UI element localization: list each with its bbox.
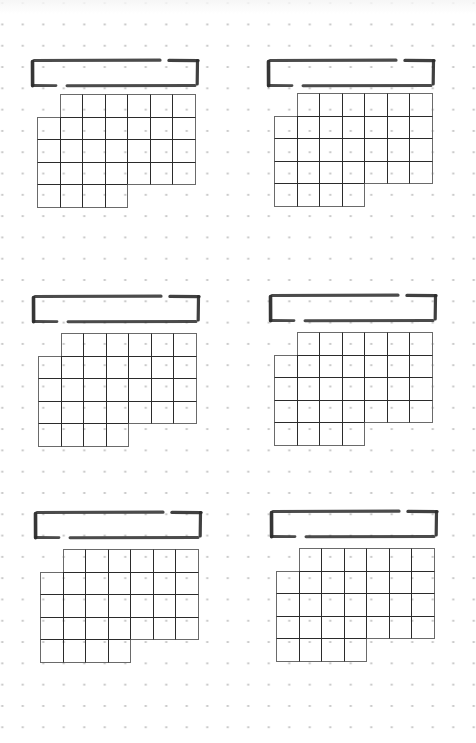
day-cell[interactable] [37, 162, 61, 186]
day-cell[interactable] [151, 356, 175, 380]
month-title-box[interactable] [35, 512, 201, 538]
day-cell[interactable] [387, 355, 411, 379]
day-cell[interactable] [153, 594, 177, 618]
day-cell[interactable] [321, 548, 345, 572]
day-cell[interactable] [153, 549, 177, 573]
day-cell[interactable] [344, 548, 368, 572]
day-cell[interactable] [105, 94, 129, 118]
day-cell[interactable] [130, 572, 154, 596]
day-cell[interactable] [342, 161, 366, 185]
day-cell[interactable] [85, 617, 109, 641]
day-cell[interactable] [38, 378, 62, 402]
day-cell[interactable] [409, 377, 433, 401]
day-cell[interactable] [61, 378, 85, 402]
day-cell[interactable] [299, 593, 323, 617]
day-cell[interactable] [342, 377, 366, 401]
day-cell[interactable] [173, 378, 197, 402]
day-cell[interactable] [105, 162, 129, 186]
day-cell[interactable] [61, 401, 85, 425]
day-cell[interactable] [173, 333, 197, 357]
month-title-box[interactable] [32, 60, 198, 86]
day-cell[interactable] [319, 161, 343, 185]
day-cell[interactable] [60, 117, 84, 141]
day-cell[interactable] [127, 117, 151, 141]
day-cell[interactable] [321, 616, 345, 640]
day-cell[interactable] [364, 138, 388, 162]
day-cell[interactable] [387, 116, 411, 140]
day-cell[interactable] [299, 638, 323, 662]
day-cell[interactable] [366, 571, 390, 595]
day-cell[interactable] [297, 400, 321, 424]
day-cell[interactable] [106, 401, 130, 425]
day-cell[interactable] [63, 572, 87, 596]
day-cell[interactable] [344, 638, 368, 662]
day-cell[interactable] [105, 117, 129, 141]
day-cell[interactable] [342, 422, 366, 446]
day-cell[interactable] [105, 139, 129, 163]
day-cell[interactable] [276, 638, 300, 662]
day-cell[interactable] [276, 616, 300, 640]
day-cell[interactable] [83, 378, 107, 402]
day-cell[interactable] [60, 139, 84, 163]
day-cell[interactable] [276, 571, 300, 595]
month-title-box[interactable] [33, 296, 199, 322]
day-cell[interactable] [321, 593, 345, 617]
day-cell[interactable] [366, 548, 390, 572]
day-cell[interactable] [151, 401, 175, 425]
day-cell[interactable] [85, 549, 109, 573]
day-cell[interactable] [409, 93, 433, 117]
month-title-box[interactable] [268, 60, 434, 86]
day-cell[interactable] [63, 549, 87, 573]
day-cell[interactable] [409, 332, 433, 356]
day-cell[interactable] [319, 422, 343, 446]
day-cell[interactable] [150, 117, 174, 141]
day-cell[interactable] [409, 138, 433, 162]
day-cell[interactable] [389, 593, 413, 617]
day-cell[interactable] [37, 184, 61, 208]
day-cell[interactable] [60, 184, 84, 208]
day-cell[interactable] [299, 571, 323, 595]
day-cell[interactable] [344, 571, 368, 595]
day-cell[interactable] [172, 94, 196, 118]
day-cell[interactable] [108, 572, 132, 596]
day-cell[interactable] [274, 355, 298, 379]
day-cell[interactable] [130, 549, 154, 573]
day-cell[interactable] [37, 139, 61, 163]
day-cell[interactable] [274, 138, 298, 162]
day-cell[interactable] [366, 616, 390, 640]
day-cell[interactable] [274, 377, 298, 401]
day-cell[interactable] [150, 139, 174, 163]
day-cell[interactable] [342, 355, 366, 379]
day-cell[interactable] [389, 616, 413, 640]
day-cell[interactable] [344, 593, 368, 617]
day-cell[interactable] [274, 400, 298, 424]
day-cell[interactable] [63, 594, 87, 618]
day-cell[interactable] [409, 400, 433, 424]
day-cell[interactable] [108, 639, 132, 663]
day-cell[interactable] [40, 572, 64, 596]
day-cell[interactable] [82, 184, 106, 208]
day-cell[interactable] [389, 548, 413, 572]
day-cell[interactable] [105, 184, 129, 208]
day-cell[interactable] [61, 356, 85, 380]
day-cell[interactable] [153, 572, 177, 596]
day-cell[interactable] [409, 355, 433, 379]
day-cell[interactable] [106, 423, 130, 447]
day-cell[interactable] [411, 593, 435, 617]
day-cell[interactable] [387, 332, 411, 356]
day-cell[interactable] [150, 162, 174, 186]
day-cell[interactable] [127, 94, 151, 118]
day-cell[interactable] [38, 356, 62, 380]
day-cell[interactable] [276, 593, 300, 617]
day-cell[interactable] [40, 594, 64, 618]
day-cell[interactable] [85, 594, 109, 618]
day-cell[interactable] [106, 378, 130, 402]
day-cell[interactable] [319, 116, 343, 140]
day-cell[interactable] [274, 183, 298, 207]
day-cell[interactable] [411, 616, 435, 640]
day-cell[interactable] [297, 93, 321, 117]
day-cell[interactable] [130, 617, 154, 641]
day-cell[interactable] [411, 571, 435, 595]
day-cell[interactable] [364, 332, 388, 356]
day-cell[interactable] [130, 594, 154, 618]
